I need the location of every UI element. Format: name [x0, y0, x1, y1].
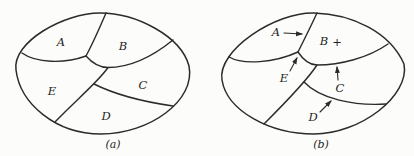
region-label-b-E: E	[279, 71, 289, 85]
region-label-b-D: D	[307, 110, 317, 124]
caption-b: (b)	[313, 138, 329, 151]
map-regions-figure: A B C D E (a)	[0, 0, 414, 156]
region-label-a-B: B	[118, 39, 127, 53]
plus-marker: +	[332, 35, 342, 49]
region-label-a-A: A	[56, 35, 65, 49]
region-label-a-C: C	[139, 78, 148, 92]
figure-canvas: A B C D E (a)	[0, 0, 414, 156]
caption-a: (a)	[105, 138, 120, 151]
region-label-b-B: B	[319, 34, 328, 48]
region-label-a-D: D	[100, 109, 110, 123]
region-label-b-A: A	[271, 25, 280, 39]
region-label-a-E: E	[47, 84, 57, 98]
figure-background	[0, 0, 414, 156]
region-label-b-C: C	[336, 81, 345, 95]
